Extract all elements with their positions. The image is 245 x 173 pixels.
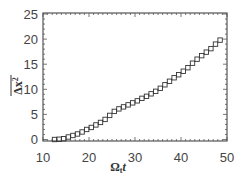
data-point-marker xyxy=(158,86,162,90)
plot-frame xyxy=(43,13,227,141)
data-point-marker xyxy=(112,109,116,113)
data-point-marker xyxy=(186,66,190,70)
y-axis-label-group: Δx2 xyxy=(11,75,25,96)
data-point-marker xyxy=(103,117,107,121)
data-point-marker xyxy=(195,57,199,61)
data-point-marker xyxy=(85,127,89,131)
x-axis-ticks: 1020304050 xyxy=(36,13,234,165)
x-tick-label: 50 xyxy=(220,150,234,165)
data-point-marker xyxy=(131,101,135,105)
data-point-marker xyxy=(163,83,167,87)
x-tick-label: 40 xyxy=(174,150,188,165)
data-point-marker xyxy=(121,105,125,109)
plot-border xyxy=(43,13,227,141)
data-point-marker xyxy=(75,132,79,136)
data-point-marker xyxy=(218,38,222,42)
y-tick-label: 15 xyxy=(24,57,38,72)
data-point-marker xyxy=(172,76,176,80)
data-point-marker xyxy=(209,46,213,50)
data-point-marker xyxy=(66,135,70,139)
x-tick-label: 30 xyxy=(128,150,142,165)
x-axis-label-text: Ωtt xyxy=(110,160,126,173)
y-axis-label-text: Δx2 xyxy=(11,77,25,95)
data-point-marker xyxy=(62,137,66,141)
y-axis-label: Δx2 xyxy=(11,75,25,96)
data-point-marker xyxy=(200,53,204,57)
x-tick-label: 10 xyxy=(36,150,50,165)
data-point-marker xyxy=(126,103,130,107)
x-axis-label: Ωtt xyxy=(110,160,126,173)
y-tick-label: 10 xyxy=(24,82,38,97)
data-point-marker xyxy=(154,89,158,93)
data-point-marker xyxy=(98,120,102,124)
data-point-marker xyxy=(204,50,208,54)
data-point-marker xyxy=(190,61,194,65)
data-point-marker xyxy=(177,73,181,77)
x-tick-label: 20 xyxy=(82,150,96,165)
data-series xyxy=(52,38,222,142)
data-point-marker xyxy=(144,94,148,98)
data-point-marker xyxy=(89,125,93,129)
y-tick-label: 5 xyxy=(31,107,38,122)
y-tick-label: 0 xyxy=(31,132,38,147)
y-tick-label: 25 xyxy=(24,7,38,22)
chart: 1020304050 0510152025 Ωtt Δx2 xyxy=(0,0,245,173)
data-point-marker xyxy=(117,107,121,111)
data-point-marker xyxy=(213,42,217,46)
y-axis-ticks: 0510152025 xyxy=(24,7,227,148)
data-point-marker xyxy=(181,69,185,73)
data-point-marker xyxy=(94,123,98,127)
data-point-marker xyxy=(140,96,144,100)
data-point-marker xyxy=(71,133,75,137)
data-point-marker xyxy=(149,92,153,96)
data-point-marker xyxy=(80,130,84,134)
data-point-marker xyxy=(108,113,112,117)
data-point-marker xyxy=(135,99,139,103)
y-tick-label: 20 xyxy=(24,32,38,47)
data-point-marker xyxy=(167,79,171,83)
